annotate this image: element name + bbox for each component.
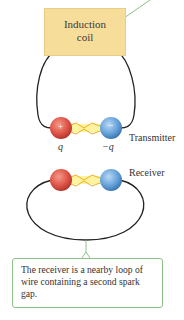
charge-neg-q-label: −q	[102, 141, 114, 152]
receiver-sphere-right	[100, 169, 122, 191]
positive-sign: +	[58, 121, 63, 131]
coil-label-line1: Induction	[44, 18, 126, 31]
negative-sign: −	[108, 120, 114, 131]
receiver-sphere-left	[50, 169, 72, 191]
callout-pointer	[82, 240, 90, 258]
charge-q-label: q	[58, 141, 63, 152]
pointer-line	[124, 0, 150, 18]
transmitter-label: Transmitter	[129, 132, 175, 143]
receiver-loop	[27, 180, 144, 240]
induction-coil-label: Induction coil	[44, 18, 126, 44]
receiver-callout: The receiver is a nearby loop of wire co…	[12, 258, 163, 308]
coil-label-line2: coil	[44, 31, 126, 44]
receiver-label: Receiver	[129, 167, 165, 178]
transmitter-wire-right	[116, 50, 135, 128]
transmitter-wire-left	[37, 50, 56, 128]
